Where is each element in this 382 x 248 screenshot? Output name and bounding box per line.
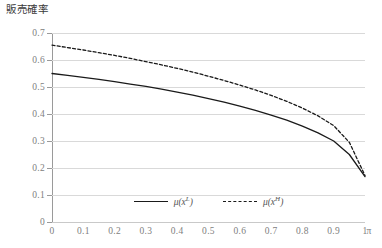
y-tick-label: 0.2 — [32, 163, 45, 173]
chart-legend: μ(xL)μ(xH) — [52, 191, 365, 211]
x-tick-label: 0.4 — [171, 226, 184, 236]
legend-entry[interactable]: μ(xH) — [223, 195, 283, 207]
y-tick-label: 0.3 — [32, 136, 45, 146]
y-tick-label: 0.5 — [32, 82, 45, 92]
x-tick-label: 1 — [362, 226, 367, 236]
legend-entry[interactable]: μ(xL) — [134, 195, 193, 207]
legend-label: μ(xH) — [263, 195, 283, 207]
x-tick-label: 0.1 — [77, 226, 90, 236]
series-line-mu(x^H) — [52, 45, 365, 175]
x-axis-ticks: π 00.10.20.30.40.50.60.70.80.91 — [0, 224, 382, 248]
x-tick-label: 0 — [49, 226, 54, 236]
x-tick-label: 0.9 — [327, 226, 340, 236]
x-tick-label: 0.8 — [296, 226, 309, 236]
x-tick-label: 0.5 — [202, 226, 215, 236]
y-tick-label: 0.6 — [32, 55, 45, 65]
x-tick-label: 0.2 — [108, 226, 121, 236]
series-line-mu(x^L) — [52, 74, 365, 177]
y-tick-label: 0.1 — [32, 190, 45, 200]
legend-label: μ(xL) — [174, 195, 193, 207]
y-axis-ticks: 00.10.20.30.40.50.60.7 — [0, 0, 52, 248]
gridline — [52, 222, 365, 223]
y-tick-label: 0.4 — [32, 109, 45, 119]
legend-swatch-dashed — [223, 201, 257, 202]
x-tick-label: 0.6 — [233, 226, 246, 236]
x-tick-label: 0.7 — [265, 226, 278, 236]
legend-swatch-solid — [134, 201, 168, 202]
x-tick-label: 0.3 — [140, 226, 153, 236]
chart-root: 販売確率 00.10.20.30.40.50.60.7 μ(xL)μ(xH) π… — [0, 0, 382, 248]
y-tick-label: 0.7 — [32, 28, 45, 38]
